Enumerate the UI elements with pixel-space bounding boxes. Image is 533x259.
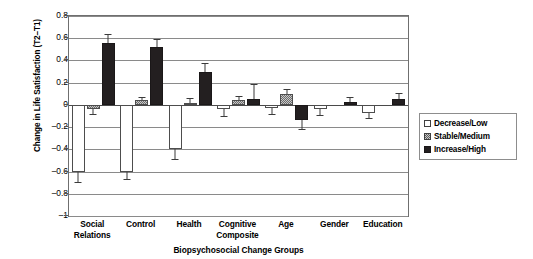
y-axis-tick-label: 0.2 — [34, 78, 68, 86]
y-axis-tick-label: 0 — [34, 100, 68, 108]
bar — [102, 43, 115, 105]
legend-item: Increase/High — [424, 143, 512, 155]
bar — [344, 102, 357, 105]
error-bar-cap — [250, 84, 257, 85]
x-axis-category-labels: SocialRelationsControlHealthCognitiveCom… — [68, 219, 409, 245]
legend-swatch-increase-icon — [424, 146, 431, 153]
x-axis-label-line: Social — [68, 219, 116, 230]
error-bar-stem — [253, 84, 254, 100]
error-bar — [344, 97, 357, 101]
x-axis-label-line: Cognitive — [213, 219, 261, 230]
error-bar-cap — [75, 182, 82, 183]
plot-area — [68, 15, 409, 217]
error-bar — [135, 97, 148, 100]
legend-label: Decrease/Low — [434, 119, 487, 128]
error-bar — [247, 84, 260, 100]
legend-label: Stable/Medium — [434, 132, 490, 141]
x-axis-label-line: Age — [262, 219, 310, 230]
x-axis-label-line: Relations — [68, 230, 116, 241]
error-bar-cap — [172, 159, 179, 160]
legend-item: Decrease/Low — [424, 117, 512, 129]
y-axis-ticks: 0.80.60.40.20–0.2–0.4–0.6–0.8–1 — [30, 15, 68, 217]
error-bar-stem — [205, 63, 206, 72]
bar — [135, 100, 148, 104]
gridline — [69, 194, 408, 195]
gridline — [69, 60, 408, 61]
error-bar-stem — [175, 149, 176, 159]
legend-label: Increase/High — [434, 145, 486, 154]
error-bar — [265, 108, 278, 114]
error-bar-cap — [283, 89, 290, 90]
bar — [72, 105, 85, 172]
error-bar — [72, 172, 85, 182]
x-axis-label-line: Control — [116, 219, 164, 230]
bar — [247, 99, 260, 105]
gridline — [69, 38, 408, 39]
error-bar-stem — [156, 39, 157, 47]
chart-figure: Change in Life Satisfaction (T2–T1) 0.80… — [0, 0, 533, 259]
x-axis-title: Biopsychosocial Change Groups — [68, 245, 409, 255]
y-axis-tick-label: –0.2 — [34, 122, 68, 130]
error-bar — [314, 109, 327, 115]
gridline — [69, 83, 408, 84]
bar — [150, 47, 163, 105]
error-bar — [102, 34, 115, 43]
legend-swatch-decrease-icon — [424, 120, 431, 127]
error-bar — [362, 113, 375, 119]
error-bar — [392, 93, 405, 100]
error-bar-cap — [220, 116, 227, 117]
error-bar — [217, 109, 230, 116]
gridline — [69, 16, 408, 17]
error-bar-cap — [187, 98, 194, 99]
error-bar-cap — [317, 115, 324, 116]
bar — [295, 105, 308, 121]
error-bar — [232, 96, 245, 100]
x-axis-label: Health — [165, 219, 213, 230]
error-bar — [199, 63, 212, 72]
error-bar-stem — [108, 34, 109, 43]
x-axis-label: Education — [359, 219, 407, 230]
error-bar — [184, 98, 197, 102]
error-bar-cap — [365, 118, 372, 119]
y-axis-tick-label: –1 — [34, 211, 68, 219]
y-axis-tick-label: –0.8 — [34, 189, 68, 197]
error-bar — [120, 172, 133, 180]
x-axis-label: Control — [116, 219, 164, 230]
x-axis-label-line: Education — [359, 219, 407, 230]
bar — [232, 100, 245, 104]
bar — [169, 105, 182, 149]
error-bar — [87, 109, 100, 113]
error-bar-cap — [90, 114, 97, 115]
chart-legend: Decrease/LowStable/MediumIncrease/High — [419, 113, 517, 160]
bar — [392, 99, 405, 105]
error-bar-stem — [301, 120, 302, 129]
x-axis-label-line: Composite — [213, 230, 261, 241]
error-bar-cap — [123, 179, 130, 180]
x-axis-label: CognitiveComposite — [213, 219, 261, 241]
error-bar — [295, 120, 308, 129]
error-bar-cap — [153, 39, 160, 40]
error-bar-cap — [235, 96, 242, 97]
legend-item: Stable/Medium — [424, 130, 512, 142]
error-bar-cap — [298, 129, 305, 130]
error-bar-cap — [347, 97, 354, 98]
y-axis-tick-label: 0.6 — [34, 33, 68, 41]
error-bar — [150, 39, 163, 47]
error-bar-cap — [202, 63, 209, 64]
legend-swatch-stable-icon — [424, 133, 431, 140]
error-bar-stem — [78, 172, 79, 182]
bar — [199, 72, 212, 105]
error-bar-cap — [268, 114, 275, 115]
y-axis-tick-label: –0.4 — [34, 144, 68, 152]
x-axis-label-line: Health — [165, 219, 213, 230]
error-bar — [280, 89, 293, 93]
bar — [184, 103, 197, 105]
y-axis-tick-label: –0.6 — [34, 167, 68, 175]
error-bar-cap — [138, 97, 145, 98]
x-axis-label-line: Gender — [310, 219, 358, 230]
error-bar-cap — [395, 93, 402, 94]
bar — [120, 105, 133, 172]
y-axis-tick-label: 0.4 — [34, 55, 68, 63]
error-bar-stem — [126, 172, 127, 180]
bar — [280, 94, 293, 105]
